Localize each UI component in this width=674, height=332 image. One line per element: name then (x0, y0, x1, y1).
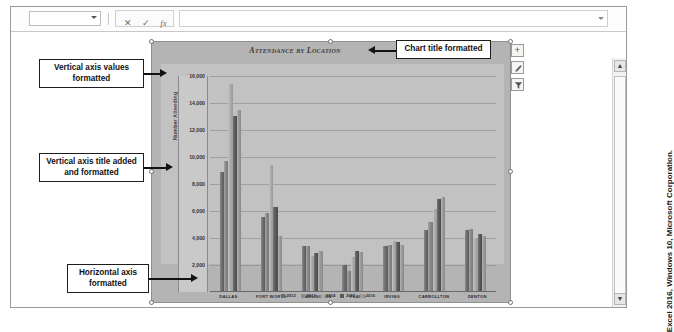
source-credit: Excel 2016, Windows 10, Microsoft Corpor… (665, 150, 674, 332)
legend-swatch (321, 294, 325, 298)
legend-label: 2012 (286, 293, 295, 298)
bar-series-container (210, 76, 496, 291)
bar-cluster (302, 76, 323, 291)
callout-arrow-line-4 (375, 50, 397, 52)
legend-label: 2016 (366, 293, 375, 298)
vertical-axis-labels[interactable]: 2,0004,0006,0008,00010,00012,00014,00016… (178, 76, 208, 292)
callout-arrow-head-1 (160, 69, 167, 77)
callout-arrow-head-3 (191, 274, 198, 282)
chart-side-buttons: + (511, 44, 524, 95)
legend-swatch (360, 294, 364, 298)
formula-bar: ✕ ✓ fx (11, 7, 626, 32)
vertical-axis-tick: 14,000 (189, 100, 205, 106)
vertical-axis-tick: 8,000 (192, 181, 205, 187)
bar-2016-carrollton[interactable] (441, 197, 445, 292)
bar-cluster (261, 76, 282, 291)
bar-2016-arlington[interactable] (318, 251, 322, 292)
callout-arrow-head-4 (368, 46, 375, 54)
bar-2016-dallas[interactable] (237, 110, 241, 291)
bar-2016-fort-worth[interactable] (278, 236, 282, 291)
vertical-axis-tick: 6,000 (192, 208, 205, 214)
formula-action-group: ✕ ✓ fx (115, 10, 174, 27)
vertical-axis-tick: 16,000 (189, 73, 205, 79)
legend-entry[interactable]: 2014 (321, 293, 336, 298)
worksheet-area: Attendance by Location Number Attending … (11, 32, 626, 307)
selection-handle-mr[interactable] (508, 169, 513, 174)
callout-arrow-line-2 (144, 167, 166, 169)
callout-arrow-line-1 (144, 73, 160, 75)
selection-handle-bl[interactable] (149, 300, 154, 305)
legend-entry[interactable]: 2016 (360, 293, 375, 298)
scrollbar-thumb[interactable] (614, 76, 626, 301)
figure-frame: ✕ ✓ fx Attendance by Location Number Att… (10, 6, 627, 308)
callout-arrow-head-2 (166, 163, 173, 171)
chart-filters-button[interactable] (511, 78, 524, 91)
bar-2016-plano[interactable] (359, 252, 363, 291)
callout-chart-title: Chart title formatted (396, 40, 491, 59)
scroll-down-icon[interactable]: ▼ (614, 293, 626, 305)
legend-entry[interactable]: 2013 (301, 293, 316, 298)
formula-bar-divider (108, 13, 109, 25)
selection-handle-br[interactable] (508, 300, 513, 305)
vertical-axis-tick: 4,000 (192, 235, 205, 241)
vertical-scrollbar[interactable]: ▲ ▼ (612, 58, 626, 307)
name-box[interactable] (29, 11, 101, 26)
vertical-axis-tick: 2,000 (192, 262, 205, 268)
bar-cluster (220, 76, 241, 291)
callout-arrow-line-3 (149, 278, 191, 280)
legend-label: 2014 (326, 293, 335, 298)
callout-horizontal-axis: Horizontal axis formatted (67, 264, 149, 293)
legend-label: 2015 (346, 293, 355, 298)
legend-label: 2013 (306, 293, 315, 298)
legend-entry[interactable]: 2015 (340, 293, 355, 298)
selection-handle-tl[interactable] (149, 39, 154, 44)
legend-entry[interactable]: 2012 (281, 293, 296, 298)
chart-styles-button[interactable] (511, 61, 524, 74)
legend-swatch (301, 294, 305, 298)
bar-cluster (383, 76, 404, 291)
vertical-axis-tick: 12,000 (189, 127, 205, 133)
vertical-axis-tick: 10,000 (189, 154, 205, 160)
bar-2016-denton[interactable] (482, 236, 486, 291)
chart-object[interactable]: Attendance by Location Number Attending … (151, 41, 511, 303)
funnel-icon (514, 81, 523, 90)
formula-expand-icon[interactable] (598, 17, 604, 20)
callout-vertical-axis-values: Vertical axis values formatted (39, 59, 144, 88)
bar-cluster (342, 76, 363, 291)
selection-handle-tm[interactable] (328, 39, 333, 44)
bar-cluster (465, 76, 486, 291)
plot-area (210, 76, 496, 292)
chevron-down-icon[interactable] (91, 16, 97, 19)
insert-function-icon[interactable]: fx (156, 16, 171, 30)
callout-vertical-axis-title: Vertical axis title added and formatted (39, 153, 144, 182)
selection-handle-ml[interactable] (149, 169, 154, 174)
formula-input[interactable] (179, 10, 608, 27)
legend-swatch (340, 294, 344, 298)
brush-icon (514, 64, 523, 73)
cancel-icon[interactable]: ✕ (120, 16, 135, 30)
chart-elements-button[interactable]: + (511, 44, 524, 57)
scroll-up-icon[interactable]: ▲ (614, 60, 626, 72)
legend-swatch (281, 294, 285, 298)
confirm-icon[interactable]: ✓ (138, 16, 153, 30)
bar-cluster (424, 76, 445, 291)
bar-2016-irving[interactable] (400, 245, 404, 291)
chart-legend[interactable]: 20122013201420152016 (152, 293, 510, 298)
